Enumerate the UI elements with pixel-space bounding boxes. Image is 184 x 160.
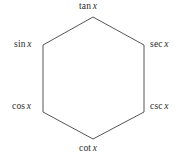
vertex-label-sin-function: sin xyxy=(14,39,26,49)
vertex-label-csc-function: csc xyxy=(150,101,163,111)
vertex-label-csc: cscx xyxy=(150,102,169,112)
vertex-label-cos: cosx xyxy=(12,102,31,112)
vertex-label-cot-function: cot xyxy=(79,143,91,153)
vertex-label-cot: cotx xyxy=(79,144,97,154)
vertex-label-sec-function: sec xyxy=(150,39,163,49)
vertex-label-sin-variable: x xyxy=(27,39,31,49)
vertex-label-cot-variable: x xyxy=(93,143,97,153)
vertex-label-cos-function: cos xyxy=(12,101,25,111)
vertex-label-tan-function: tan xyxy=(79,1,91,11)
vertex-label-tan: tanx xyxy=(79,2,97,12)
vertex-label-csc-variable: x xyxy=(164,101,168,111)
trig-hexagon-diagram: tanx secx cscx cotx cosx sinx xyxy=(0,0,184,160)
vertex-label-cos-variable: x xyxy=(27,101,31,111)
vertex-label-sin: sinx xyxy=(14,40,32,50)
hexagon-outline xyxy=(0,0,184,160)
vertex-label-sec-variable: x xyxy=(164,39,168,49)
hexagon-shape xyxy=(43,17,144,139)
vertex-label-sec: secx xyxy=(150,40,169,50)
vertex-label-tan-variable: x xyxy=(93,1,97,11)
